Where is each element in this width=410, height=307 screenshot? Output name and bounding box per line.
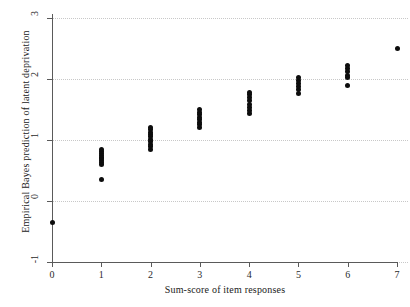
data-point: [247, 90, 252, 95]
x-tick-label: 0: [42, 269, 62, 281]
x-tick-mark: [249, 262, 250, 267]
x-tick-label: 3: [190, 269, 210, 281]
scatter-plot-figure: -10123 01234567 Sum-score of item respon…: [0, 0, 410, 307]
x-tick-label: 1: [91, 269, 111, 281]
data-point: [50, 220, 55, 225]
x-tick-mark: [101, 262, 102, 267]
y-axis-title: Empirical Bayes prediction of latent dep…: [20, 2, 31, 262]
x-tick-label: 4: [239, 269, 259, 281]
x-axis-title: Sum-score of item responses: [52, 284, 398, 295]
data-point: [345, 83, 350, 88]
x-tick-mark: [298, 262, 299, 267]
plot-area: [52, 14, 408, 262]
x-tick-mark: [52, 262, 53, 267]
x-axis-line: [52, 262, 398, 263]
x-tick-label: 2: [141, 269, 161, 281]
x-tick-mark: [151, 262, 152, 267]
data-point: [148, 125, 153, 130]
x-tick-label: 6: [338, 269, 358, 281]
x-tick-mark: [397, 262, 398, 267]
data-point: [395, 46, 400, 51]
x-tick-mark: [200, 262, 201, 267]
data-point: [99, 177, 104, 182]
x-tick-label: 5: [288, 269, 308, 281]
data-point: [296, 75, 301, 80]
x-tick-mark: [348, 262, 349, 267]
x-tick-label: 7: [387, 269, 407, 281]
